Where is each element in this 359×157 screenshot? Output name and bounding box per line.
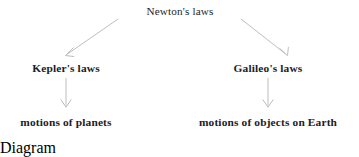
edge-kepler-to-planets xyxy=(61,78,71,107)
diagram-canvas: Newton's laws Kepler's laws Galileo's la… xyxy=(0,0,359,139)
edge-line xyxy=(241,19,286,54)
node-galileos-laws: Galileo's laws xyxy=(234,62,303,75)
edge-line xyxy=(67,19,118,54)
edge-galileo-to-earth xyxy=(263,78,273,107)
edge-root-to-kepler xyxy=(66,19,119,57)
node-motions-of-objects-on-earth: motions of objects on Earth xyxy=(199,116,337,129)
node-motions-of-planets: motions of planets xyxy=(20,116,111,129)
node-newtons-laws: Newton's laws xyxy=(146,5,213,18)
arrowhead-icon xyxy=(280,47,289,56)
node-keplers-laws: Kepler's laws xyxy=(32,62,99,75)
edge-root-to-galileo xyxy=(241,19,288,56)
